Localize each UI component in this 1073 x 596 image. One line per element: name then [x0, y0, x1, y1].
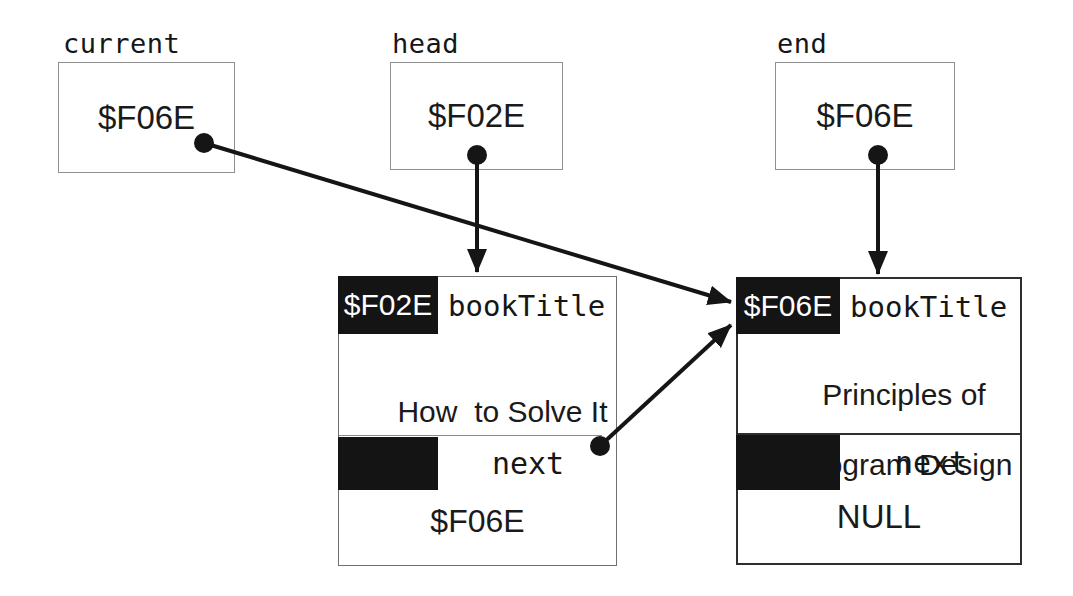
pointer-current-value: $F06E: [98, 99, 195, 137]
node-f02e-address-cell: $F02E: [338, 276, 438, 334]
node-f02e: $F02E bookTitle How to Solve It next $F0…: [338, 276, 617, 566]
node-f02e-address: $F02E: [344, 288, 432, 322]
pointer-head-box: $F02E: [390, 62, 563, 170]
node-f06e-address: $F06E: [744, 289, 832, 323]
node-f06e-address-cell: $F06E: [736, 277, 840, 334]
pointer-end-box: $F06E: [775, 62, 955, 170]
node-f06e-next-cell: [736, 435, 840, 490]
node-f06e-next-field-label: next: [840, 435, 1022, 490]
node-f02e-title-line: How to Solve It: [397, 395, 607, 428]
node-f02e-divider: [339, 435, 602, 436]
node-f06e: $F06E bookTitle Principles of Program De…: [736, 277, 1022, 565]
node-f06e-booktitle-value: Principles of Program Design: [738, 342, 1020, 517]
linked-list-diagram: current $F06E head $F02E end $F06E $F02E…: [0, 0, 1073, 596]
pointer-current-box: $F06E: [58, 62, 235, 173]
pointer-head-label: head: [392, 30, 459, 58]
pointer-current-label: current: [63, 30, 180, 58]
arrow-f02e-next-to-f06e: [600, 325, 731, 446]
pointer-head-value: $F02E: [428, 97, 525, 135]
node-f02e-next-field-label: next: [438, 437, 618, 490]
node-f06e-title-line-1: Principles of: [822, 378, 985, 411]
pointer-end-label: end: [777, 30, 827, 58]
node-f02e-next-cell: [338, 437, 438, 490]
node-f02e-next-value: $F06E: [339, 503, 616, 540]
node-f02e-booktitle-field-label: bookTitle: [448, 277, 605, 334]
node-f06e-booktitle-field-label: bookTitle: [850, 279, 1007, 334]
pointer-end-value: $F06E: [816, 97, 913, 135]
node-f06e-next-value: NULL: [738, 498, 1020, 536]
